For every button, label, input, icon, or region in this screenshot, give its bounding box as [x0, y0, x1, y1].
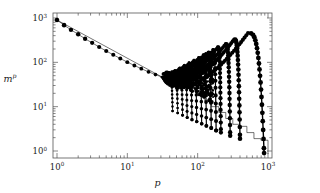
- fan-speckle-point: [187, 81, 190, 84]
- branch-point: [238, 125, 243, 130]
- fan-speckle-point: [211, 78, 215, 82]
- branch-point: [185, 93, 188, 96]
- branch-point: [195, 113, 198, 116]
- branch-point: [200, 100, 204, 104]
- branch-point: [257, 61, 262, 66]
- branch-point: [176, 102, 179, 105]
- branch-point: [262, 146, 267, 151]
- branch-endpoint: [219, 130, 223, 134]
- branch-point: [218, 102, 222, 106]
- branch-point: [214, 110, 218, 114]
- main-power-law-point: [147, 70, 151, 74]
- branch-point: [236, 58, 241, 63]
- fan-speckle-point: [167, 72, 170, 75]
- svg-text:101: 101: [120, 161, 134, 171]
- fan-speckle-point: [202, 91, 204, 93]
- y-tick-label-1: 101: [33, 101, 47, 111]
- svg-text:102: 102: [190, 161, 205, 171]
- branch-point: [171, 101, 174, 104]
- branch-point: [200, 114, 204, 118]
- branch-point: [218, 71, 222, 75]
- fan-speckle-point: [163, 72, 167, 76]
- main-power-law-point: [83, 37, 87, 41]
- branch-point: [171, 105, 174, 108]
- branch-point: [175, 86, 179, 90]
- fan-speckle-point: [209, 58, 212, 61]
- branch-point: [236, 72, 241, 77]
- branch-point: [261, 137, 266, 142]
- fan-speckle-point: [176, 79, 179, 82]
- branch-point: [181, 98, 184, 101]
- branch-point: [254, 42, 259, 47]
- fan-speckle-point: [197, 72, 199, 74]
- main-power-law-point: [55, 18, 60, 23]
- branch-endpoint: [181, 114, 184, 117]
- fan-speckle-point: [168, 75, 171, 78]
- branch-point: [236, 78, 241, 83]
- main-power-law-point: [76, 32, 80, 36]
- main-power-law-point: [69, 28, 73, 32]
- y-tick-label-2: 102: [33, 57, 48, 67]
- branch-point: [218, 91, 222, 95]
- main-power-law-point: [90, 41, 94, 45]
- branch-endpoint: [228, 134, 232, 138]
- branch-point: [181, 103, 184, 106]
- branch-point: [258, 80, 263, 85]
- fan-speckle-point: [212, 96, 214, 98]
- fan-speckle-point: [204, 91, 208, 95]
- branch-endpoint: [171, 110, 174, 113]
- fan-speckle-point: [202, 66, 205, 69]
- fan-speckle-point: [204, 56, 207, 59]
- branch-point: [186, 110, 189, 113]
- branch-point: [260, 102, 265, 107]
- main-power-law-point: [104, 49, 108, 53]
- branch-point: [213, 86, 217, 90]
- fan-speckle-point: [198, 92, 201, 95]
- branch-point: [195, 106, 198, 109]
- branch-point: [176, 93, 179, 96]
- branch-point: [227, 103, 231, 107]
- fan-speckle-point: [197, 76, 199, 78]
- fan-speckle-point: [201, 68, 205, 72]
- branch-point: [255, 50, 260, 55]
- branch-point: [227, 74, 231, 78]
- branch-point: [185, 98, 188, 101]
- branch-point: [214, 119, 218, 123]
- branch-point: [227, 97, 231, 101]
- branch-point: [226, 61, 230, 65]
- main-power-law-point: [132, 64, 136, 68]
- svg-text:101: 101: [33, 101, 47, 111]
- branch-point: [190, 93, 193, 96]
- fan-speckle-point: [200, 82, 203, 85]
- branch-point: [218, 85, 222, 89]
- fan-speckle-point: [209, 93, 212, 96]
- branch-endpoint: [262, 151, 267, 156]
- branch-point: [190, 111, 193, 114]
- fan-speckle-point: [201, 77, 204, 80]
- fan-speckle-point: [205, 88, 208, 91]
- main-power-law-point: [62, 23, 67, 28]
- branch-point: [209, 117, 213, 121]
- main-power-law-point: [154, 73, 158, 77]
- branch-point: [237, 110, 242, 115]
- fan-speckle-point: [210, 73, 213, 76]
- data-layer: [55, 18, 268, 156]
- x-tick-label-2: 102: [190, 161, 205, 171]
- fan-speckle-point: [202, 93, 204, 95]
- branch-point: [214, 101, 218, 105]
- branch-point: [218, 80, 222, 84]
- branch-point: [237, 117, 242, 122]
- branch-endpoint: [205, 124, 209, 128]
- branch-point: [176, 107, 179, 110]
- svg-text:100: 100: [33, 146, 48, 156]
- branch-endpoint: [190, 118, 193, 121]
- branch-point: [176, 97, 179, 100]
- svg-text:103: 103: [261, 161, 276, 171]
- x-tick-label-1: 101: [120, 161, 134, 171]
- fan-speckle-point: [211, 81, 214, 84]
- fan-speckle-point: [172, 80, 176, 84]
- branch-point: [237, 90, 242, 95]
- branch-point: [185, 104, 188, 107]
- fan-speckle-point: [189, 84, 192, 87]
- fan-speckle-point: [206, 95, 208, 97]
